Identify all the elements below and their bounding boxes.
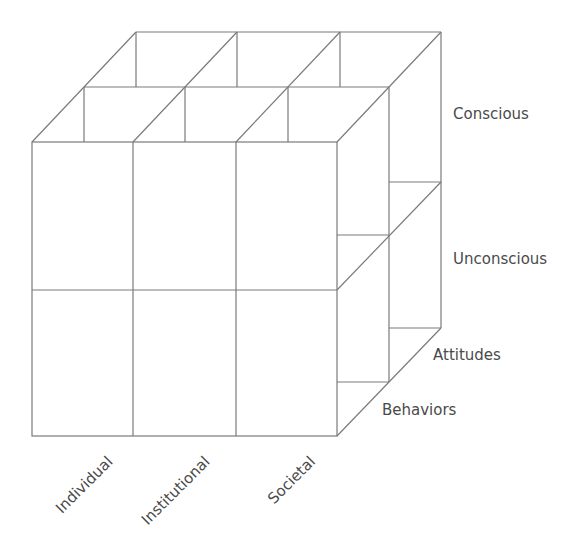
label-attitudes: Attitudes [433, 346, 501, 364]
cube-lines [32, 32, 441, 436]
label-unconscious: Unconscious [453, 250, 547, 268]
label-behaviors: Behaviors [382, 401, 456, 419]
front-face [32, 142, 337, 436]
label-conscious: Conscious [453, 105, 529, 123]
